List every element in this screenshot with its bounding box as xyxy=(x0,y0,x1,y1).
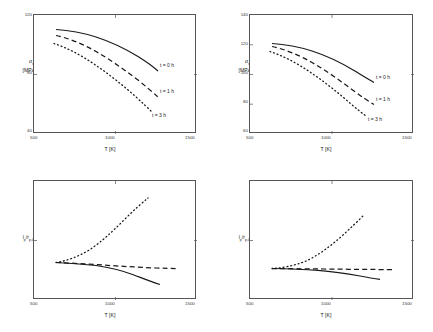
panel-a-xtick-2: 1500 xyxy=(185,135,195,140)
panel-c-ytick-2: 100 xyxy=(230,70,248,75)
panel-c-label-t3h: t = 3 h xyxy=(368,116,382,122)
panel-a-plot-area xyxy=(33,14,196,133)
panel-a-curves xyxy=(34,15,197,134)
panel-a-ytick-0: 40 xyxy=(14,128,32,133)
panel-c-xtick-2: 1500 xyxy=(402,135,412,140)
panel-d-ylabel: lp/rp,0 xyxy=(226,234,250,243)
panel-c-label-t0h: t = 0 h xyxy=(376,74,390,80)
panel-c-ytick-4: 140 xyxy=(230,12,248,17)
panel-b-curves xyxy=(34,181,197,300)
panel-b-xtick-1: 1000 xyxy=(105,301,115,306)
panel-c-xlabel: T [K] xyxy=(296,146,356,152)
panel-d: (d) lp/rp,0 500 1000 1500 T [K] t = 2 h … xyxy=(216,166,433,332)
panel-a-curve-t1h xyxy=(56,36,158,98)
panel-a-xtick-0: 500 xyxy=(30,135,37,140)
panel-c: (c) σnc [MPa] 140 120 100 80 60 500 1000… xyxy=(216,0,433,166)
panel-a-label-t0h: t = 0 h xyxy=(160,62,174,68)
panel-a-xtick-1: 1000 xyxy=(105,135,115,140)
panel-a-label-t1h: t = 1 h xyxy=(160,88,174,94)
panel-a: (a) σnc [MPa] 120 80 40 500 1000 1500 T … xyxy=(0,0,216,166)
panel-b-curve-t1h xyxy=(56,263,176,269)
panel-b-xlabel: T [K] xyxy=(80,312,140,318)
panel-d-curve-t2h xyxy=(272,215,364,269)
panel-c-curve-t0h xyxy=(272,44,374,83)
panel-d-xlabel: T [K] xyxy=(296,312,356,318)
panel-b-xtick-2: 1500 xyxy=(185,301,195,306)
panel-c-ytick-3: 120 xyxy=(230,41,248,46)
panel-b-plot-area xyxy=(33,180,196,299)
panel-b: (b) lp/rp,0 500 1000 1500 T [K] t = 3 h … xyxy=(0,166,216,332)
panel-d-plot-area xyxy=(249,180,413,299)
panel-c-xtick-1: 1000 xyxy=(321,135,331,140)
panel-c-curve-t3h xyxy=(270,52,366,117)
panel-d-curve-t0h xyxy=(272,269,380,280)
panel-a-ytick-1: 80 xyxy=(14,70,32,75)
panel-a-curve-t3h xyxy=(54,44,152,113)
panel-a-label-t3h: t = 3 h xyxy=(152,112,166,118)
panel-b-xtick-0: 500 xyxy=(30,301,37,306)
panel-a-xlabel: T [K] xyxy=(80,146,140,152)
panel-a-ytick-2: 120 xyxy=(14,12,32,17)
panel-c-xtick-0: 500 xyxy=(246,135,253,140)
panel-b-ylabel: lp/rp,0 xyxy=(10,234,34,243)
panel-b-curve-t3h xyxy=(56,198,148,263)
panel-d-curves xyxy=(250,181,414,300)
panel-c-label-t1h: t = 1 h xyxy=(376,96,390,102)
panel-d-xtick-2: 1500 xyxy=(402,301,412,306)
panel-c-ytick-0: 60 xyxy=(230,128,248,133)
figure-root: (a) σnc [MPa] 120 80 40 500 1000 1500 T … xyxy=(0,0,433,332)
panel-d-xtick-0: 500 xyxy=(246,301,253,306)
panel-d-xtick-1: 1000 xyxy=(321,301,331,306)
panel-c-ytick-1: 80 xyxy=(230,99,248,104)
